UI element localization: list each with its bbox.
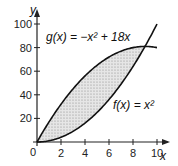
svg-text:60: 60 <box>20 65 32 77</box>
x-axis-label: x <box>159 149 167 163</box>
svg-text:40: 40 <box>20 89 32 101</box>
svg-text:100: 100 <box>14 18 32 30</box>
y-axis-label: y <box>29 3 37 17</box>
f-label: f(x) = x² <box>113 98 155 112</box>
svg-text:20: 20 <box>20 112 32 124</box>
svg-text:80: 80 <box>20 42 32 54</box>
y-ticks: 20406080100 <box>14 18 40 124</box>
svg-text:8: 8 <box>130 147 136 159</box>
origin-label: 0 <box>30 146 36 158</box>
g-label: g(x) = −x² + 18x <box>46 30 131 44</box>
svg-text:6: 6 <box>106 147 112 159</box>
chart: 246810 20406080100 0 x y g(x) = −x² + 18… <box>0 0 178 166</box>
shaded-region <box>37 46 145 142</box>
svg-text:4: 4 <box>82 147 88 159</box>
x-axis-arrow <box>162 139 170 145</box>
svg-text:2: 2 <box>58 147 64 159</box>
